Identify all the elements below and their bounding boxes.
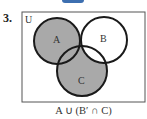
- expression-caption: A ∪ (B′ ∩ C): [20, 104, 147, 116]
- venn-diagram: U A B C: [0, 0, 147, 119]
- universe-label: U: [25, 14, 33, 25]
- set-label-a: A: [53, 34, 61, 45]
- set-label-b: B: [100, 33, 107, 44]
- set-label-c: C: [78, 75, 85, 86]
